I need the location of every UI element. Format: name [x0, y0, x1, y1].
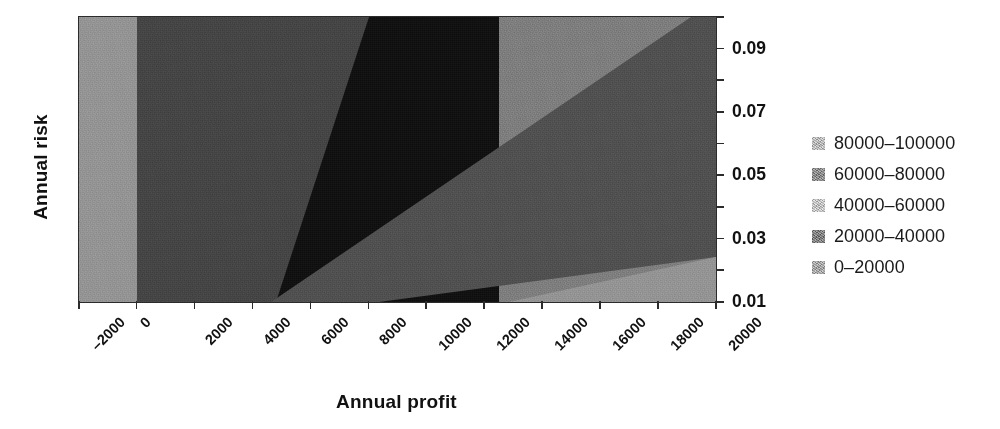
legend: 80000–10000060000–8000040000–6000020000–…: [812, 128, 997, 283]
legend-item: 80000–100000: [812, 128, 997, 159]
y-tick-minor: [716, 269, 724, 271]
legend-swatch-grain: [812, 199, 825, 212]
y-tick: [716, 48, 724, 50]
contour-bands-svg: [79, 17, 716, 302]
legend-swatch-grain: [812, 137, 825, 150]
x-tick-label: –2000: [88, 314, 128, 354]
x-tick-label: 0: [137, 314, 154, 331]
x-tick-label: 8000: [375, 314, 409, 348]
x-tick-label: 10000: [436, 314, 476, 354]
legend-item: 60000–80000: [812, 159, 997, 190]
y-tick-label: 0.09: [732, 37, 766, 58]
x-tick-label: 12000: [494, 314, 534, 354]
contour-chart-figure: Annual risk –20000: [0, 0, 1000, 429]
legend-label: 80000–100000: [834, 133, 955, 154]
legend-swatch: [812, 199, 825, 212]
legend-swatch-grain: [812, 230, 825, 243]
x-tick: [252, 301, 254, 309]
x-tick: [541, 301, 543, 309]
y-tick-minor: [716, 16, 724, 18]
x-tick: [136, 301, 138, 309]
legend-item: 20000–40000: [812, 221, 997, 252]
y-tick-minor: [716, 143, 724, 145]
x-axis-title: Annual profit: [78, 391, 715, 413]
y-tick-label: 0.01: [732, 291, 766, 312]
x-tick: [368, 301, 370, 309]
band-0-20000-left: [79, 17, 137, 302]
y-tick-label: 0.05: [732, 164, 766, 185]
y-tick-minor: [716, 206, 724, 208]
x-tick: [310, 301, 312, 309]
x-tick-label: 4000: [260, 314, 294, 348]
y-tick: [716, 238, 724, 240]
y-tick-label: 0.07: [732, 101, 766, 122]
y-tick-label: 0.03: [732, 227, 766, 248]
legend-swatch: [812, 168, 825, 181]
x-tick: [425, 301, 427, 309]
x-tick-label: 14000: [551, 314, 591, 354]
legend-swatch: [812, 137, 825, 150]
x-tick: [194, 301, 196, 309]
y-tick-minor: [716, 79, 724, 81]
x-tick-label: 20000: [725, 314, 765, 354]
y-axis-title: Annual risk: [30, 67, 54, 267]
legend-label: 0–20000: [834, 257, 905, 278]
legend-item: 40000–60000: [812, 190, 997, 221]
contour-bands: [79, 17, 716, 302]
plot-area: [78, 16, 717, 303]
x-axis: –200002000400060008000100001200014000160…: [78, 301, 716, 311]
x-tick: [483, 301, 485, 309]
legend-label: 60000–80000: [834, 164, 945, 185]
x-tick: [599, 301, 601, 309]
legend-item: 0–20000: [812, 252, 997, 283]
x-tick-label: 16000: [609, 314, 649, 354]
legend-label: 40000–60000: [834, 195, 945, 216]
y-tick: [716, 174, 724, 176]
legend-swatch: [812, 261, 825, 274]
x-tick-label: 2000: [202, 314, 236, 348]
legend-swatch: [812, 230, 825, 243]
y-tick: [716, 111, 724, 113]
legend-swatch-grain: [812, 261, 825, 274]
legend-swatch-grain: [812, 168, 825, 181]
x-tick-label: 6000: [317, 314, 351, 348]
x-tick: [78, 301, 80, 309]
x-tick-label: 18000: [667, 314, 707, 354]
y-axis: 0.010.030.050.070.09: [716, 16, 806, 302]
x-tick: [657, 301, 659, 309]
y-tick: [716, 301, 724, 303]
legend-label: 20000–40000: [834, 226, 945, 247]
